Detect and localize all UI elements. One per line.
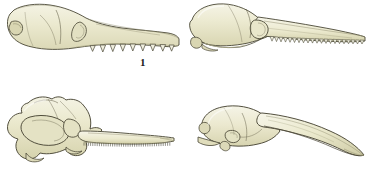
tooth-row-1 [90, 44, 174, 52]
orbit-4 [225, 130, 240, 142]
figure-plate: 1 [0, 0, 368, 187]
figure-panel-1[interactable]: 1 [0, 0, 184, 93]
figure-label-1: 1 [140, 57, 146, 68]
skull-illustration-1 [0, 0, 184, 93]
quadrate-4 [220, 141, 230, 150]
occipital-notch-1 [9, 21, 23, 35]
skull-body-1 [7, 4, 179, 49]
skull-illustration-4 [184, 93, 368, 186]
figure-panel-4[interactable]: 4 [184, 93, 368, 186]
figure-panel-3[interactable]: 3 [0, 93, 184, 186]
skull-illustration-2 [184, 0, 368, 93]
figure-panel-2[interactable]: 2 [184, 0, 368, 93]
skull-illustration-3 [0, 93, 184, 186]
occipital-condyle-2 [191, 37, 203, 48]
